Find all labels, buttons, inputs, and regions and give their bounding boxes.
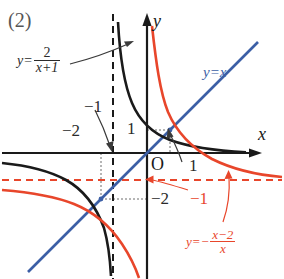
curve-red-right-branch bbox=[152, 26, 282, 177]
equation-black-fraction: 2 x+1 bbox=[34, 46, 61, 75]
tick-label-y-minus-2: −2 bbox=[151, 190, 169, 207]
figure-canvas: (2) y= 2 x+1 y=x y=− x−2 x y x O −1 −2 1… bbox=[0, 0, 284, 279]
graph-plot bbox=[0, 0, 284, 279]
equation-red-numerator: x−2 bbox=[210, 228, 235, 242]
tick-label-x-1: 1 bbox=[189, 157, 198, 174]
y-axis-label: y bbox=[153, 12, 161, 30]
tick-label-y-minus-1: −1 bbox=[190, 190, 208, 207]
tick-label-y-1: 1 bbox=[127, 120, 136, 137]
equation-red-curve: y=− x−2 x bbox=[186, 228, 235, 255]
tick-label-x-minus-2: −2 bbox=[62, 122, 80, 139]
equation-black-denominator: x+1 bbox=[34, 61, 61, 75]
equation-red-fraction: x−2 x bbox=[210, 228, 235, 255]
y-axis bbox=[142, 13, 151, 279]
equation-red-lhs: y=− bbox=[186, 235, 209, 248]
equation-black-lhs: y= bbox=[17, 54, 33, 68]
equation-blue-line: y=x bbox=[203, 65, 226, 80]
equation-black-numerator: 2 bbox=[34, 46, 61, 61]
curve-black-right-branch bbox=[118, 22, 246, 152]
curve-red-left-branch bbox=[2, 190, 139, 278]
origin-label: O bbox=[151, 155, 164, 173]
x-axis-label: x bbox=[258, 125, 266, 143]
problem-number-label: (2) bbox=[8, 10, 31, 30]
equation-red-denominator: x bbox=[210, 242, 235, 255]
equation-black-curve: y= 2 x+1 bbox=[17, 46, 60, 75]
tick-label-x-minus-1: −1 bbox=[84, 98, 102, 115]
intersection-point-minus2-minus2 bbox=[99, 197, 104, 202]
